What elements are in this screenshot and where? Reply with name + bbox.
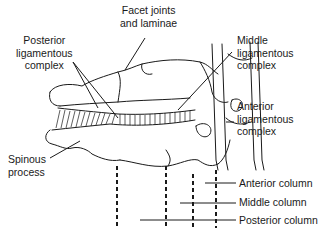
label-middle-column: Middle column xyxy=(239,196,307,209)
label-anterior-ligamentous-complex: Anterior ligamentous complex xyxy=(237,100,294,138)
spine-three-column-diagram: Facet joints and laminae Posterior ligam… xyxy=(0,0,322,239)
label-anterior-column: Anterior column xyxy=(239,177,313,190)
label-middle-ligamentous-complex: Middle ligamentous complex xyxy=(237,34,294,72)
label-facet-joints: Facet joints and laminae xyxy=(120,4,177,29)
label-posterior-column: Posterior column xyxy=(239,214,318,227)
label-spinous-process: Spinous process xyxy=(8,153,46,178)
label-posterior-ligamentous-complex: Posterior ligamentous complex xyxy=(16,34,73,72)
